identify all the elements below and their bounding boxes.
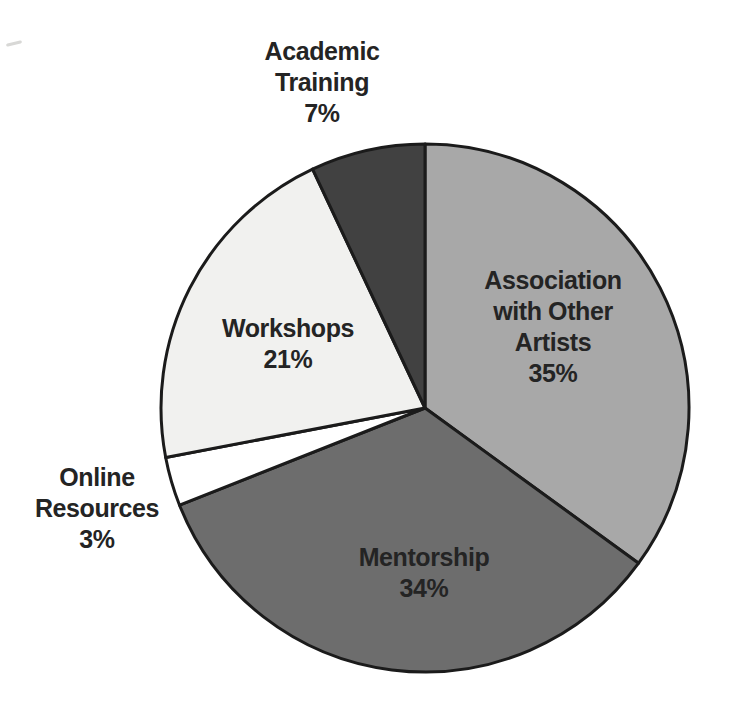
slice-label-academic-training: Academic Training 7% — [237, 36, 407, 129]
slice-label-text: Workshops — [222, 314, 354, 342]
pie-chart-figure: Association with Other Artists 35% Mento… — [0, 0, 745, 721]
slice-label-text: Association with Other Artists — [484, 266, 621, 356]
slice-label-workshops: Workshops 21% — [188, 313, 388, 375]
slice-label-association: Association with Other Artists 35% — [458, 265, 648, 389]
slice-percent-text: 7% — [237, 98, 407, 129]
slice-label-text: Academic Training — [265, 37, 380, 96]
slice-percent-text: 21% — [188, 344, 388, 375]
slice-label-online-resources: Online Resources 3% — [17, 462, 177, 555]
slice-label-mentorship: Mentorship 34% — [319, 542, 529, 604]
slice-label-text: Online Resources — [35, 463, 159, 522]
slice-label-text: Mentorship — [359, 543, 490, 571]
slice-percent-text: 35% — [458, 358, 648, 389]
slice-percent-text: 34% — [319, 573, 529, 604]
slice-percent-text: 3% — [17, 524, 177, 555]
